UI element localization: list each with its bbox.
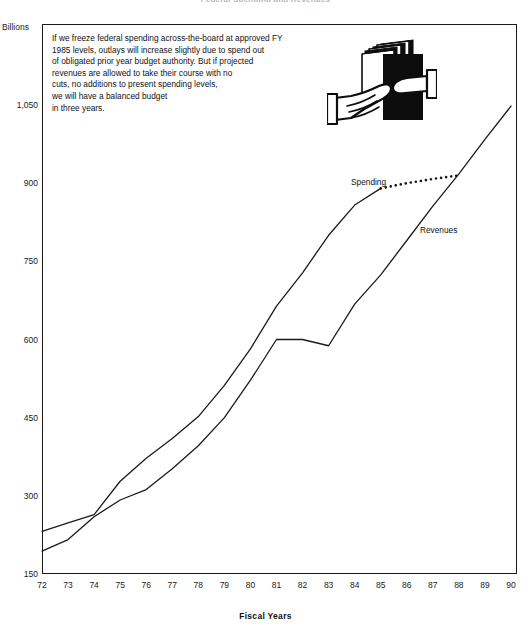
chart-title: Federal Spending and Revenues — [0, 0, 531, 2]
x-tick-label: 82 — [298, 580, 307, 590]
chart-page: Federal Spending and Revenues Billions 1… — [0, 0, 531, 630]
x-tick-label: 87 — [428, 580, 437, 590]
x-tick-label: 73 — [63, 580, 72, 590]
x-tick-label: 89 — [480, 580, 489, 590]
hands-holding-documents-icon — [327, 36, 437, 132]
x-axis-title: Fiscal Years — [0, 611, 531, 621]
x-tick-label: 78 — [194, 580, 203, 590]
x-tick-label: 84 — [350, 580, 359, 590]
y-tick-label: 600 — [2, 335, 38, 345]
annotation-text-block: If we freeze federal spending across-the… — [52, 33, 320, 114]
x-tick-label: 77 — [168, 580, 177, 590]
y-tick-label: 900 — [2, 178, 38, 188]
series-label-revenues: Revenues — [420, 225, 457, 235]
series-label-spending: Spending — [351, 177, 386, 187]
y-tick-label: 750 — [2, 256, 38, 266]
annotation-line: revenues are allowed to take their cours… — [52, 68, 320, 80]
x-tick-label: 83 — [324, 580, 333, 590]
x-tick-label: 90 — [506, 580, 515, 590]
annotation-line: If we freeze federal spending across-the… — [52, 33, 320, 45]
x-tick-label: 88 — [454, 580, 463, 590]
annotation-line: in three years. — [52, 103, 320, 115]
y-axis-tick-labels: 1503004506007509001,050 — [0, 0, 38, 630]
y-tick-label: 150 — [2, 569, 38, 579]
y-tick-label: 450 — [2, 413, 38, 423]
x-tick-label: 76 — [141, 580, 150, 590]
x-tick-label: 74 — [89, 580, 98, 590]
x-tick-label: 79 — [220, 580, 229, 590]
y-tick-label: 1,050 — [2, 100, 38, 110]
annotation-line: 1985 levels, outlays will increase sligh… — [52, 45, 320, 57]
x-tick-label: 75 — [115, 580, 124, 590]
annotation-line: of obligated prior year budget authority… — [52, 56, 320, 68]
x-tick-label: 86 — [402, 580, 411, 590]
x-tick-label: 81 — [272, 580, 281, 590]
x-tick-label: 85 — [376, 580, 385, 590]
annotation-line: we will have a balanced budget — [52, 91, 320, 103]
x-tick-label: 80 — [246, 580, 255, 590]
x-tick-label: 72 — [37, 580, 46, 590]
annotation-line: cuts, no additions to present spending l… — [52, 79, 320, 91]
x-axis-tick-labels: 72737475767778798081828384858687888990 — [42, 580, 517, 594]
y-tick-label: 300 — [2, 491, 38, 501]
